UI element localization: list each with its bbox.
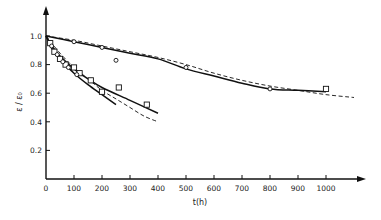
axes <box>46 12 360 179</box>
data-point-circle <box>61 60 65 64</box>
data-point-circle <box>75 73 79 77</box>
data-point-square <box>99 89 104 94</box>
y-tick-label: 0.2 <box>30 146 42 155</box>
y-tick-label: 0.8 <box>30 60 42 69</box>
y-tick-label: 1.0 <box>30 32 42 41</box>
x-axis-label: t(h) <box>193 198 207 207</box>
y-axis-arrow-icon <box>43 6 49 15</box>
x-tick-label: 800 <box>263 184 278 193</box>
x-tick-label: 600 <box>207 184 222 193</box>
x-tick-label: 0 <box>44 184 49 193</box>
x-tick-label: 900 <box>291 184 306 193</box>
data-point-circle <box>114 58 118 62</box>
x-tick-label: 400 <box>151 184 166 193</box>
upper-solid-fit <box>46 36 326 92</box>
data-point-square <box>71 65 76 70</box>
data-point-circle <box>184 65 188 69</box>
y-axis-label: ε / ε₀ <box>15 92 24 112</box>
y-ticks: 0.20.40.60.81.0 <box>30 32 50 155</box>
x-tick-label: 700 <box>235 184 250 193</box>
data-point-square <box>144 102 149 107</box>
data-point-circle <box>268 87 272 91</box>
y-tick-label: 0.4 <box>30 118 42 127</box>
x-tick-label: 100 <box>67 184 82 193</box>
data-point-square <box>88 78 93 83</box>
data-point-square <box>116 85 121 90</box>
data-point-circle <box>72 40 76 44</box>
data-point-circle <box>55 53 59 57</box>
x-tick-label: 300 <box>123 184 138 193</box>
y-tick-label: 0.6 <box>30 89 42 98</box>
data-point-circle <box>50 44 54 48</box>
x-tick-label: 500 <box>179 184 194 193</box>
data-point-circle <box>100 45 104 49</box>
x-tick-label: 1000 <box>316 184 335 193</box>
chart: 0.20.40.60.81.0 010020030040050060070080… <box>0 0 381 220</box>
plot-series <box>46 36 354 122</box>
x-ticks: 01002003004005006007008009001000 <box>44 175 336 193</box>
x-axis-arrow-icon <box>357 176 366 182</box>
data-point-circle <box>66 65 70 69</box>
data-point-square <box>323 86 328 91</box>
x-tick-label: 200 <box>95 184 110 193</box>
